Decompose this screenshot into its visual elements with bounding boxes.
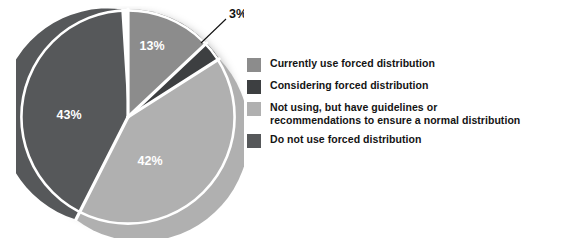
pie-label-not-using: 42% xyxy=(137,154,162,168)
legend-label-not-using-line1: Not using, but have guidelines or xyxy=(270,101,437,113)
legend-item-considering[interactable]: Considering forced distribution xyxy=(247,79,562,94)
pie-label-do-not-use: 43% xyxy=(56,108,81,122)
legend-label-considering: Considering forced distribution xyxy=(270,79,428,92)
pie-label-currently-use: 13% xyxy=(139,39,164,53)
legend-swatch-not-using-icon xyxy=(247,102,261,116)
legend-swatch-currently-use-icon xyxy=(247,58,261,72)
legend-item-not-using[interactable]: Not using, but have guidelines or recomm… xyxy=(247,101,562,126)
legend-item-currently-use[interactable]: Currently use forced distribution xyxy=(247,57,562,72)
callout-leader-line xyxy=(201,19,226,43)
legend-label-do-not-use: Do not use forced distribution xyxy=(270,133,421,146)
legend-label-not-using-line2: recommendations to ensure a normal distr… xyxy=(270,114,520,127)
legend-swatch-do-not-use-icon xyxy=(247,134,261,148)
legend-label-currently-use: Currently use forced distribution xyxy=(270,57,435,70)
legend-label-not-using: Not using, but have guidelines or recomm… xyxy=(270,101,520,126)
pie-chart-figure: 13% 3% 42% 43% Currently use forced dist… xyxy=(0,0,568,247)
chart-legend: Currently use forced distribution Consid… xyxy=(247,57,562,148)
pie-chart-graphic: 13% 3% 42% 43% xyxy=(16,6,244,238)
legend-swatch-considering-icon xyxy=(247,80,261,94)
pie-label-considering: 3% xyxy=(229,7,244,21)
legend-item-do-not-use[interactable]: Do not use forced distribution xyxy=(247,133,562,148)
pie-svg: 13% 3% 42% 43% xyxy=(16,6,244,238)
